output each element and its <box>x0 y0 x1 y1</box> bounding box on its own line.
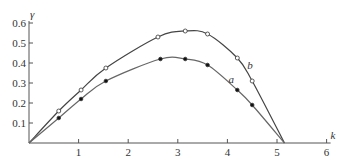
data-point-a <box>206 63 210 67</box>
data-point-a <box>183 57 187 61</box>
chart-container: 1234560.10.20.30.40.50.6 γkba <box>0 0 340 168</box>
data-point-a <box>104 79 108 83</box>
data-point-a <box>236 88 240 92</box>
data-point-b <box>235 56 239 60</box>
data-point-b <box>104 66 108 70</box>
data-point-b <box>250 79 254 83</box>
line-chart: 1234560.10.20.30.40.50.6 γkba <box>0 0 340 168</box>
y-tick-label: 0.6 <box>12 17 26 29</box>
data-point-a <box>250 103 254 107</box>
axes: 1234560.10.20.30.40.50.6 <box>12 17 330 158</box>
x-tick-label: 5 <box>274 146 280 158</box>
data-point-b <box>206 32 210 36</box>
data-point-a <box>79 97 83 101</box>
x-tick-label: 1 <box>76 146 82 158</box>
data-point-b <box>156 35 160 39</box>
curves <box>29 31 284 143</box>
x-tick-label: 4 <box>225 146 231 158</box>
labels: γkba <box>30 8 337 141</box>
data-point-a <box>57 116 61 120</box>
curve-label-b: b <box>247 59 253 71</box>
curve-label-a: a <box>228 73 234 85</box>
curve-b <box>29 31 284 143</box>
y-tick-label: 0.1 <box>12 117 26 129</box>
data-point-a <box>159 57 163 61</box>
x-axis-title: k <box>331 129 337 141</box>
y-tick-label: 0.3 <box>12 77 26 89</box>
data-point-b <box>79 88 83 92</box>
y-tick-label: 0.5 <box>12 37 26 49</box>
x-tick-label: 6 <box>324 146 330 158</box>
data-point-b <box>57 109 61 113</box>
y-axis-title: γ <box>30 8 35 20</box>
x-tick-label: 2 <box>125 146 131 158</box>
x-tick-label: 3 <box>175 146 181 158</box>
markers <box>57 29 254 120</box>
y-tick-label: 0.2 <box>12 97 26 109</box>
y-tick-label: 0.4 <box>12 57 26 69</box>
data-point-b <box>183 29 187 33</box>
